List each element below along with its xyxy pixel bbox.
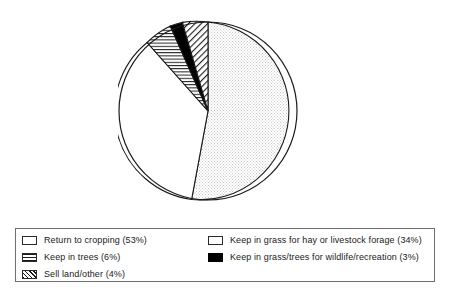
legend-swatch-diagonal-hatch-icon xyxy=(22,270,37,279)
legend-swatch-black-icon xyxy=(208,253,223,262)
legend-label-keep-in-trees: Keep in trees (6%) xyxy=(44,252,120,263)
legend-item-keep-in-grass-hay-forage: Keep in grass for hay or livestock forag… xyxy=(208,233,422,248)
legend-item-keep-in-trees: Keep in trees (6%) xyxy=(22,250,147,265)
chart-legend: Return to cropping (53%) Keep in trees (… xyxy=(15,228,435,282)
legend-label-keep-in-grass-hay-forage: Keep in grass for hay or livestock forag… xyxy=(230,235,422,246)
legend-label-sell-land-other: Sell land/other (4%) xyxy=(44,269,125,280)
legend-item-sell-land-other: Sell land/other (4%) xyxy=(22,267,147,282)
legend-swatch-horizontal-lines-icon xyxy=(22,253,37,262)
pie-chart-figure: Return to cropping (53%) Keep in trees (… xyxy=(0,0,456,296)
legend-label-return-to-cropping: Return to cropping (53%) xyxy=(44,235,147,246)
legend-column-left: Return to cropping (53%) Keep in trees (… xyxy=(22,233,147,284)
legend-swatch-dots-icon xyxy=(22,236,37,245)
legend-column-right: Keep in grass for hay or livestock forag… xyxy=(208,233,422,267)
legend-label-wildlife-recreation: Keep in grass/trees for wildlife/recreat… xyxy=(230,252,419,263)
legend-item-wildlife-recreation: Keep in grass/trees for wildlife/recreat… xyxy=(208,250,422,265)
pie-chart-svg xyxy=(118,17,298,205)
legend-item-return-to-cropping: Return to cropping (53%) xyxy=(22,233,147,248)
pie-chart xyxy=(118,17,298,205)
legend-swatch-white-icon xyxy=(208,236,223,245)
